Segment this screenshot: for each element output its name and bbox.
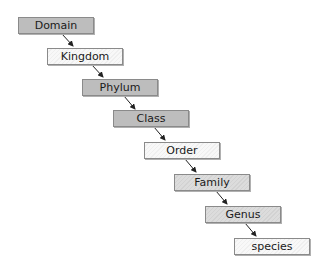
node-kingdom: Kingdom — [47, 48, 123, 65]
arrow-phylum-class — [124, 96, 135, 109]
arrow-domain-kingdom — [62, 34, 73, 46]
node-class: Class — [113, 110, 189, 127]
node-species: species — [234, 238, 310, 255]
node-domain: Domain — [18, 17, 94, 34]
node-order: Order — [144, 142, 220, 159]
node-phylum: Phylum — [82, 79, 158, 96]
arrow-kingdom-phylum — [92, 65, 103, 77]
arrow-family-genus — [216, 191, 227, 204]
arrows-layer — [0, 0, 322, 271]
arrow-genus-species — [245, 223, 256, 236]
taxonomy-diagram: Domain Kingdom Phylum Class Order Family… — [0, 0, 322, 271]
node-family: Family — [174, 174, 250, 191]
arrow-class-order — [154, 127, 165, 140]
node-genus: Genus — [205, 206, 281, 223]
arrow-order-family — [185, 159, 196, 172]
